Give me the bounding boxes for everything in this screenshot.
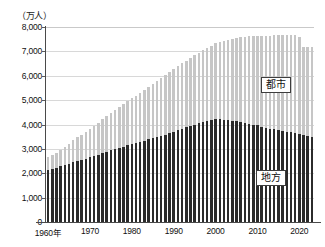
bar-column (76, 27, 79, 222)
bar-segment-urban (248, 36, 251, 123)
bar-column (126, 27, 129, 222)
bar-column (206, 27, 209, 222)
bar-column (47, 27, 50, 222)
bar-column (277, 27, 280, 222)
bar-segment-rural (227, 120, 230, 222)
x-tick-label: 2020 (290, 226, 308, 236)
bar-segment-rural (202, 122, 205, 222)
bar-segment-rural (189, 126, 192, 222)
bar-segment-rural (239, 122, 242, 222)
bar-segment-rural (59, 166, 62, 222)
y-tick-label: 5,000 (0, 95, 42, 105)
bar-column (85, 27, 88, 222)
bar-column (110, 27, 113, 222)
x-axis-line (36, 222, 321, 223)
bar-segment-urban (311, 47, 314, 137)
bar-segment-urban (189, 58, 192, 126)
bar-segment-rural (302, 135, 305, 222)
bar-segment-rural (152, 138, 155, 222)
bar-segment-rural (168, 133, 171, 222)
bar-column (168, 27, 171, 222)
bar-segment-urban (135, 96, 138, 144)
bar-segment-rural (290, 132, 293, 222)
bar-column (68, 27, 71, 222)
bar-segment-rural (131, 144, 134, 222)
bar-column (210, 27, 213, 222)
bar-column (311, 27, 314, 222)
bar-segment-rural (47, 170, 50, 222)
bar-segment-rural (156, 137, 159, 222)
y-axis-tick-labels: 8,0007,0006,0005,0004,0003,0002,0001,000… (0, 0, 42, 247)
bar-segment-urban (294, 35, 297, 133)
bar-segment-urban (181, 63, 184, 129)
bar-segment-rural (105, 152, 108, 222)
bar-column (114, 27, 117, 222)
bar-column (223, 27, 226, 222)
bar-segment-urban (80, 135, 83, 160)
bar-segment-urban (239, 37, 242, 122)
bar-column (219, 27, 222, 222)
bar-segment-rural (210, 120, 213, 222)
bar-segment-urban (89, 129, 92, 158)
bar-segment-urban (244, 37, 247, 123)
bar-segment-urban (76, 137, 79, 161)
series-label-rural: 地方 (256, 170, 286, 186)
bar-column (64, 27, 67, 222)
series-label-urban: 都市 (261, 77, 291, 93)
bar-segment-urban (68, 144, 71, 164)
bar-segment-urban (219, 42, 222, 120)
bar-segment-rural (122, 147, 125, 222)
bar-segment-rural (139, 142, 142, 222)
bar-segment-rural (177, 130, 180, 222)
bar-segment-urban (152, 84, 155, 138)
bar-column (147, 27, 150, 222)
bar-column (290, 27, 293, 222)
bar-segment-rural (72, 162, 75, 222)
bar-column (51, 27, 54, 222)
bar-segment-urban (143, 90, 146, 141)
bar-column (101, 27, 104, 222)
bar-segment-rural (311, 137, 314, 222)
bar-segment-urban (235, 38, 238, 121)
bar-segment-rural (143, 141, 146, 222)
bar-column (302, 27, 305, 222)
y-tick-label: 3,000 (0, 144, 42, 154)
bar-column (152, 27, 155, 222)
bar-segment-rural (114, 149, 117, 222)
bar-segment-urban (256, 36, 259, 126)
bar-segment-urban (193, 55, 196, 124)
bar-segment-urban (139, 93, 142, 142)
bar-column (235, 27, 238, 222)
bar-segment-urban (302, 47, 305, 135)
bar-column (55, 27, 58, 222)
bar-column (227, 27, 230, 222)
bar-segment-rural (231, 121, 234, 222)
bar-segment-rural (76, 161, 79, 222)
bar-segment-rural (214, 119, 217, 222)
bar-column (252, 27, 255, 222)
bar-column (273, 27, 276, 222)
bar-column (80, 27, 83, 222)
bar-segment-urban (185, 61, 188, 128)
plot-area (46, 27, 314, 222)
bar-segment-urban (147, 87, 150, 140)
bar-segment-rural (298, 134, 301, 222)
bar-segment-rural (97, 155, 100, 222)
bar-column (256, 27, 259, 222)
bar-segment-urban (97, 123, 100, 155)
bar-segment-rural (80, 160, 83, 222)
bar-column (139, 27, 142, 222)
bar-column (122, 27, 125, 222)
bar-segment-urban (252, 36, 255, 124)
bar-segment-urban (202, 50, 205, 122)
bar-segment-urban (110, 113, 113, 150)
bar-segment-rural (223, 120, 226, 222)
bar-column (156, 27, 159, 222)
bar-segment-rural (89, 157, 92, 222)
bar-column (198, 27, 201, 222)
bar-segment-urban (126, 101, 129, 145)
bar-segment-rural (181, 129, 184, 222)
x-tick-label: 1960年 (35, 226, 62, 238)
bar-column (135, 27, 138, 222)
bar-segment-rural (51, 169, 54, 222)
